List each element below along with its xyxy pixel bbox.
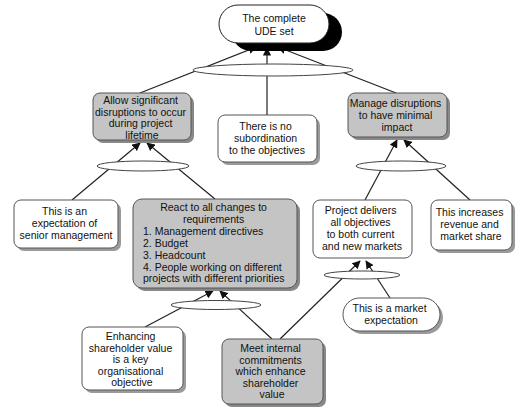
connectors [72,47,470,339]
project-line-2: all objectives [330,216,390,228]
ude-tree-diagram: The completeUDE set Allow significant di… [0,0,530,414]
manage-line-2: to have minimal [359,109,433,121]
nosub-line-2: subordination [234,132,297,144]
and-ellipse-react [171,301,261,310]
node-allow-disruptions: Allow significant disruptions to occur d… [93,93,194,143]
meet-line-2: commitments [239,354,301,366]
meet-line-1: Meet internal [240,342,301,354]
svg-text:Project delivers all obj: Project delivers all objectives to both … [322,204,402,252]
allow-line-1: Allow significant [103,94,178,106]
senior-line-2: expectation of [32,217,97,229]
senior-line-1: This is an [42,205,87,217]
market-line-1: This is a market [352,302,426,314]
node-react-to-changes: React to all changes to requirements 1. … [133,199,300,291]
and-ellipse-allow [97,161,189,171]
react-list-2: 2. Budget [143,237,188,249]
meet-line-3: which enhance [235,365,306,377]
node-project-delivers: Project delivers all objectives to both … [313,200,412,258]
node-no-subordination: There is no subordination to the objecti… [218,115,320,165]
and-ellipse-top [193,64,353,76]
root-line-1: The complete [242,12,306,24]
revenue-line-2: revenue and [440,218,499,230]
allow-line-2: disruptions to occur [95,106,187,118]
revenue-line-1: This increases [436,206,504,218]
project-line-4: and new markets [322,240,402,252]
market-line-2: expectation [364,314,418,326]
senior-line-3: senior management [20,229,113,241]
react-list-1: 1. Management directives [143,225,263,237]
shareholder-line-4: organisational [98,365,163,377]
and-ellipse-project [324,271,400,279]
svg-text:There is no subordinatio: There is no subordination to the objecti… [229,120,305,156]
react-list-4: 4. People working on different [143,261,282,273]
node-market-expectation: This is a market expectation [343,298,443,334]
node-senior-management: This is an expectation of senior managem… [14,200,121,251]
manage-line-3: impact [382,121,413,133]
shareholder-line-5: objective [111,376,153,388]
nosub-line-1: There is no [239,120,292,132]
edge-meet-to-react [220,291,272,339]
shareholder-line-1: Enhancing [106,330,156,342]
shareholder-line-2: shareholder value [89,342,173,354]
react-list-4b: projects with different priorities [143,272,285,284]
and-ellipse-manage [356,161,446,171]
node-meet-commitments: Meet internal commitments which enhance … [222,339,326,407]
allow-line-4: lifetime [125,129,158,141]
node-root: The completeUDE set [219,5,342,51]
root-line-2: UDE set [254,25,293,37]
edge-market-to-project [366,261,390,298]
node-increases-revenue: This increases revenue and market share [431,200,515,253]
meet-line-5: value [259,388,284,400]
project-line-1: Project delivers [325,204,397,216]
manage-line-1: Manage disruptions [350,97,442,109]
node-manage-disruptions: Manage disruptions to have minimal impac… [348,93,450,140]
meet-line-4: shareholder [243,377,299,389]
react-list-3: 3. Headcount [143,249,206,261]
nosub-line-3: to the objectives [229,144,305,156]
shareholder-line-3: is a key [113,353,149,365]
node-shareholder-value: Enhancing shareholder value is a key org… [82,327,186,393]
react-line-1: React to all changes to [160,201,267,213]
project-line-3: to both current [327,228,395,240]
allow-line-3: during project [109,117,173,129]
svg-text:This increases revenue a: This increases revenue and market share [436,206,507,242]
edge-senior-to-allow [72,143,140,200]
react-line-2: requirements [183,213,244,225]
revenue-line-3: market share [440,230,501,242]
